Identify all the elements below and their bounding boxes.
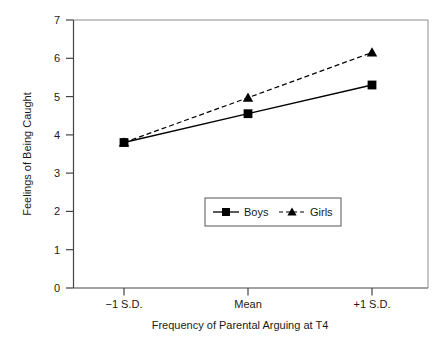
- y-tick-label-7: 7: [54, 14, 60, 26]
- plot-frame: [74, 20, 429, 288]
- y-tick-label-1: 1: [54, 244, 60, 256]
- x-tick-label-mean: Mean: [234, 298, 262, 310]
- legend-boys-label: Boys: [244, 206, 269, 218]
- x-axis-ticks: [124, 288, 372, 296]
- boys-marker-2: [244, 109, 253, 118]
- series-girls: [119, 47, 377, 146]
- y-axis-title: Feelings of Being Caught: [21, 92, 33, 216]
- y-tick-label-4: 4: [54, 129, 60, 141]
- y-tick-label-0: 0: [54, 282, 60, 294]
- x-axis-title: Frequency of Parental Arguing at T4: [152, 319, 329, 331]
- y-tick-label-2: 2: [54, 205, 60, 217]
- y-tick-label-3: 3: [54, 167, 60, 179]
- y-axis-ticks: [66, 20, 74, 288]
- legend: Boys Girls: [205, 198, 341, 226]
- series-boys: [120, 81, 377, 147]
- y-tick-label-5: 5: [54, 91, 60, 103]
- x-tick-labels: −1 S.D. Mean +1 S.D.: [106, 298, 391, 310]
- legend-girls-label: Girls: [310, 206, 333, 218]
- girls-marker-2: [243, 92, 253, 101]
- x-tick-label-plus1sd: +1 S.D.: [354, 298, 391, 310]
- boys-marker-1: [120, 138, 129, 147]
- y-tick-label-6: 6: [54, 52, 60, 64]
- y-tick-labels: 7 6 5 4 3 2 1 0: [54, 14, 60, 294]
- line-chart-svg: 7 6 5 4 3 2 1 0 −1 S.D. Mean +1 S.D.: [0, 0, 443, 345]
- legend-boys-square-marker-icon: [222, 208, 230, 216]
- boys-marker-3: [368, 81, 377, 90]
- x-tick-label-minus1sd: −1 S.D.: [106, 298, 143, 310]
- girls-marker-3: [367, 47, 377, 56]
- chart-figure: 7 6 5 4 3 2 1 0 −1 S.D. Mean +1 S.D.: [0, 0, 443, 345]
